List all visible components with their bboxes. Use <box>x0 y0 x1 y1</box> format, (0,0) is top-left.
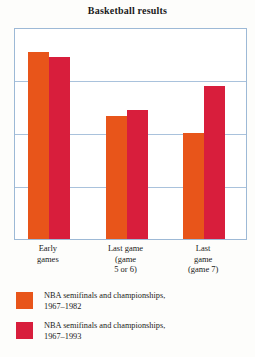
legend-item: NBA semifinals and championships, 1967–1… <box>16 321 246 343</box>
legend-color-swatch <box>16 322 33 339</box>
plot-area <box>14 28 247 240</box>
bar <box>204 86 225 239</box>
x-axis-label: Early games <box>8 243 88 264</box>
legend-item: NBA semifinals and championships, 1967–1… <box>16 291 246 313</box>
bar <box>49 57 70 239</box>
x-axis-label: Last game (game 7) <box>163 243 243 275</box>
legend-label: NBA semifinals and championships, 1967–1… <box>44 291 165 312</box>
chart-title: Basketball results <box>0 5 255 16</box>
x-axis-label: Last game (game 5 or 6) <box>86 243 166 275</box>
bar <box>127 110 148 239</box>
chart-figure: Basketball results Early gamesLast game … <box>0 0 255 357</box>
bar <box>106 116 127 239</box>
legend-label: NBA semifinals and championships, 1967–1… <box>44 321 165 342</box>
bar-series-group <box>15 29 246 239</box>
bar <box>183 133 204 239</box>
x-axis-category-labels: Early gamesLast game (game 5 or 6)Last g… <box>14 243 247 287</box>
chart-legend: NBA semifinals and championships, 1967–1… <box>16 291 246 351</box>
legend-color-swatch <box>16 292 33 309</box>
bar <box>28 52 49 239</box>
